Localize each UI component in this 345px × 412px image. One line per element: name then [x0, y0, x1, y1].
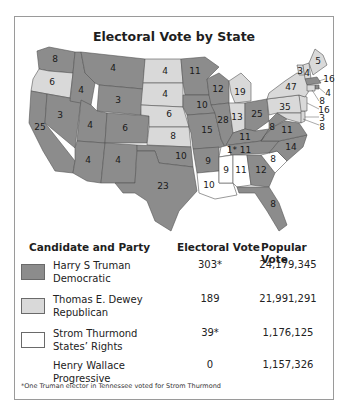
ev-KY: 11 [239, 132, 250, 142]
electoral-vote: 0 [175, 359, 245, 370]
ev-AR: 9 [205, 156, 211, 166]
legend-row-truman: Harry S Truman Democratic 303* 24,179,34… [15, 259, 335, 295]
ev-CO: 6 [122, 123, 128, 133]
ev-NE: 6 [166, 109, 172, 119]
electoral-vote: 39* [175, 327, 245, 338]
electoral-vote: 303* [175, 259, 245, 270]
swatch-democratic [21, 264, 45, 280]
ev-MS: 9 [223, 165, 229, 175]
footnote: *One Truman elector in Tennessee voted f… [21, 382, 221, 390]
candidate-name: Harry S Truman [53, 259, 131, 272]
ev-WV: 8 [269, 122, 275, 132]
ev-IN: 13 [231, 112, 242, 122]
ev-OK: 10 [175, 151, 187, 161]
state-CT [307, 85, 315, 91]
ev-ND: 4 [162, 66, 168, 76]
ev-WY: 3 [115, 95, 121, 105]
ev-AL: 11 [235, 165, 246, 175]
ev-TX: 23 [157, 181, 168, 191]
ev-IL: 28 [217, 115, 229, 125]
ev-LA: 10 [203, 180, 215, 190]
ev-VT: 3 [297, 66, 303, 76]
ev-PA: 35 [279, 102, 290, 112]
ev-NY: 47 [285, 82, 296, 92]
popular-vote: 1,176,125 [243, 327, 333, 338]
ev-MN: 11 [189, 66, 200, 76]
state-RI [315, 85, 319, 89]
ev-MA: 16 [323, 74, 335, 84]
candidate-party: Democratic [53, 272, 131, 285]
candidate-party: Republican [53, 306, 143, 319]
ev-AZ: 4 [85, 155, 91, 165]
map-svg: 8 6 25 3 4 4 3 4 6 4 4 4 4 6 8 10 23 11 … [15, 43, 335, 243]
popular-vote: 24,179,345 [243, 259, 333, 270]
popular-vote: 21,991,291 [243, 293, 333, 304]
ev-MD: 8 [319, 122, 325, 132]
legend-row-thurmond: Strom Thurmond States’ Rights 39* 1,176,… [15, 327, 335, 363]
figure-title: Electoral Vote by State [15, 29, 333, 44]
state-DE [301, 111, 305, 123]
ev-TN: 1* 11 [227, 145, 252, 155]
candidate-cell: Strom Thurmond States’ Rights [53, 327, 137, 353]
ev-CA: 25 [34, 122, 45, 132]
ev-MT: 4 [110, 63, 116, 73]
ev-ID: 4 [78, 85, 84, 95]
ev-MO: 15 [201, 125, 212, 135]
swatch-states-rights [21, 332, 45, 348]
ev-NH: 4 [304, 68, 310, 78]
ev-NC: 14 [285, 142, 297, 152]
ev-WA: 8 [52, 54, 58, 64]
ev-UT: 4 [87, 120, 93, 130]
candidate-name: Henry Wallace [53, 359, 125, 372]
ev-OR: 6 [49, 77, 55, 87]
candidate-name: Thomas E. Dewey [53, 293, 143, 306]
ev-RI: 4 [325, 88, 331, 98]
ev-KS: 8 [170, 131, 176, 141]
candidate-cell: Thomas E. Dewey Republican [53, 293, 143, 319]
ev-WI: 12 [212, 84, 223, 94]
us-electoral-map: 8 6 25 3 4 4 3 4 6 4 4 4 4 6 8 10 23 11 … [15, 43, 335, 243]
state-FL [237, 187, 287, 231]
ev-SD: 4 [162, 89, 168, 99]
candidate-name: Strom Thurmond [53, 327, 137, 340]
ev-FL: 8 [270, 199, 276, 209]
electoral-vote: 189 [175, 293, 245, 304]
ev-MI: 19 [234, 87, 246, 97]
candidate-party: States’ Rights [53, 340, 137, 353]
header-candidate: Candidate and Party [29, 241, 150, 253]
ev-IA: 10 [196, 100, 208, 110]
candidate-cell: Harry S Truman Democratic [53, 259, 131, 285]
map-figure: Electoral Vote by State [14, 16, 334, 400]
legend-row-dewey: Thomas E. Dewey Republican 189 21,991,29… [15, 293, 335, 329]
header-electoral: Electoral Vote [177, 241, 260, 253]
ev-NM: 4 [115, 155, 121, 165]
swatch-republican [21, 298, 45, 314]
ev-ME: 5 [315, 56, 321, 66]
ev-VA: 11 [281, 125, 292, 135]
ev-OH: 25 [251, 109, 262, 119]
ev-GA: 12 [255, 165, 266, 175]
ev-NV: 3 [57, 110, 63, 120]
popular-vote: 1,157,326 [243, 359, 333, 370]
state-KS [147, 127, 191, 147]
ev-SC: 8 [270, 154, 276, 164]
